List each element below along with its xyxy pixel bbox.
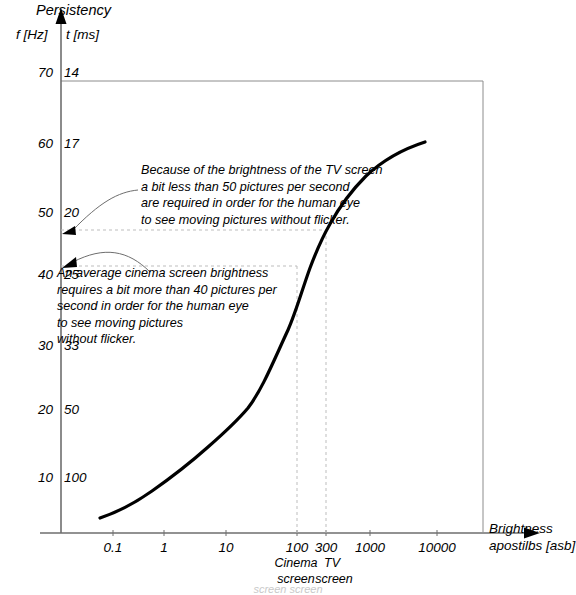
x-tick-1: 1 xyxy=(160,540,168,555)
leader-arrow-tv xyxy=(62,226,76,235)
x-sublabel-tv-line1: TV xyxy=(324,556,340,570)
x-tick-10: 10 xyxy=(218,540,233,555)
y-tick-hz-30: 30 xyxy=(13,338,53,353)
y-tick-ms-14: 14 xyxy=(64,65,79,80)
x-axis-title-line2: apostilbs [asb] xyxy=(489,538,575,553)
y-axis-unit-hz: f [Hz] xyxy=(16,27,48,42)
x-tick-100: 100 xyxy=(286,540,309,555)
bottom-caption: screen screen xyxy=(0,583,576,595)
y-tick-ms-17: 17 xyxy=(64,136,79,151)
y-tick-ms-20: 20 xyxy=(64,205,79,220)
x-tick-300: 300 xyxy=(315,540,338,555)
y-tick-hz-70: 70 xyxy=(13,65,53,80)
x-sublabel-cinema-line1: Cinema xyxy=(274,556,317,570)
annotation-tv-screen: Because of the brightness of the TV scre… xyxy=(141,162,383,228)
y-tick-hz-50: 50 xyxy=(13,205,53,220)
chart-title-persistency: Persistency xyxy=(36,2,111,18)
x-tick-10000: 10000 xyxy=(418,540,456,555)
y-tick-hz-40: 40 xyxy=(13,267,53,282)
x-axis-title-line1: Brightness xyxy=(489,521,553,536)
y-tick-hz-20: 20 xyxy=(13,402,53,417)
y-tick-ms-100: 100 xyxy=(64,470,87,485)
y-tick-hz-10: 10 xyxy=(13,470,53,485)
y-axis-unit-ms: t [ms] xyxy=(66,27,99,42)
y-tick-ms-50: 50 xyxy=(64,402,79,417)
annotation-cinema-screen: An average cinema screen brightness requ… xyxy=(57,265,277,348)
y-tick-hz-60: 60 xyxy=(13,136,53,151)
x-tick-1000: 1000 xyxy=(355,540,385,555)
x-tick-0.1: 0.1 xyxy=(104,540,123,555)
leader-line-tv xyxy=(72,190,138,231)
